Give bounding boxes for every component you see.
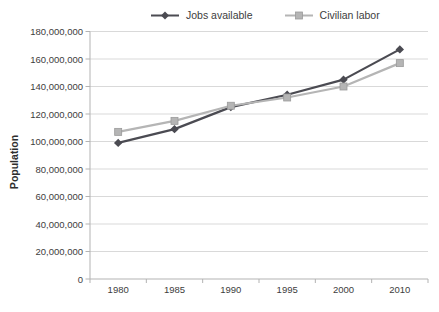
data-point-jobs-available	[396, 45, 404, 53]
y-tick-label: 180,000,000	[30, 26, 83, 37]
x-tick-label: 2000	[333, 284, 354, 295]
data-point-civilian-labor	[396, 60, 403, 67]
y-tick-label: 40,000,000	[35, 219, 83, 230]
legend: Jobs available Civilian labor	[150, 10, 380, 21]
series-line-civilian-labor	[118, 63, 400, 132]
data-point-civilian-labor	[284, 94, 291, 101]
x-tick-label: 1985	[164, 284, 185, 295]
y-tick-label: 140,000,000	[30, 81, 83, 92]
data-point-civilian-labor	[227, 102, 234, 109]
diamond-marker-icon	[161, 11, 169, 19]
jobs-available-legend-marker-icon	[150, 11, 180, 20]
legend-item-jobs-available: Jobs available	[150, 10, 253, 21]
civilian-labor-legend-marker-icon	[284, 11, 314, 20]
data-point-civilian-labor	[115, 128, 122, 135]
data-point-jobs-available	[114, 139, 122, 147]
chart-plot-area: 020,000,00040,000,00060,000,00080,000,00…	[0, 0, 439, 312]
y-axis-title: Population	[8, 135, 20, 189]
y-tick-label: 120,000,000	[30, 109, 83, 120]
line-chart: 020,000,00040,000,00060,000,00080,000,00…	[0, 0, 439, 312]
legend-item-civilian-labor: Civilian labor	[284, 10, 380, 21]
y-tick-label: 80,000,000	[35, 164, 83, 175]
square-marker-icon	[295, 12, 302, 19]
x-tick-label: 2010	[389, 284, 410, 295]
y-tick-label: 20,000,000	[35, 246, 83, 257]
data-point-civilian-labor	[340, 83, 347, 90]
x-tick-label: 1990	[220, 284, 241, 295]
x-tick-label: 1980	[108, 284, 129, 295]
data-point-jobs-available	[170, 125, 178, 133]
x-tick-label: 1995	[277, 284, 298, 295]
data-point-civilian-labor	[171, 117, 178, 124]
y-tick-label: 0	[78, 274, 83, 285]
y-tick-label: 60,000,000	[35, 191, 83, 202]
data-point-jobs-available	[339, 75, 347, 83]
legend-label-civilian-labor: Civilian labor	[320, 10, 380, 21]
series-line-jobs-available	[118, 49, 400, 143]
y-tick-label: 160,000,000	[30, 54, 83, 65]
y-tick-label: 100,000,000	[30, 136, 83, 147]
legend-label-jobs-available: Jobs available	[186, 10, 253, 21]
